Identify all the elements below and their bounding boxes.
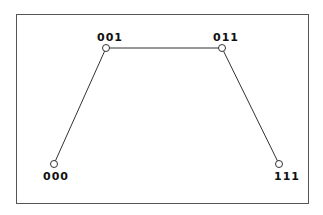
node-label-011: 011 — [213, 32, 239, 44]
node-001 — [103, 45, 110, 52]
node-000 — [51, 161, 58, 168]
node-111 — [276, 161, 283, 168]
node-label-111: 111 — [274, 171, 300, 183]
edge-011-111 — [222, 48, 279, 164]
node-label-000: 000 — [43, 171, 69, 183]
edge-000-001 — [54, 48, 106, 164]
node-011 — [219, 45, 226, 52]
node-label-001: 001 — [97, 32, 123, 44]
